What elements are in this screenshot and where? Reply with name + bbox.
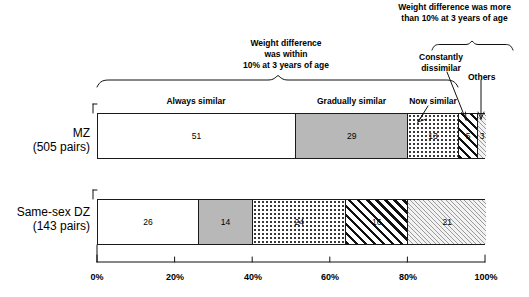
row-label-dz-sub: (143 pairs) [0, 219, 90, 233]
stacked-bar-chart: Weight difference was more than 10% at 3… [0, 0, 529, 297]
bar-mz-segment-now-similar: 13 [408, 114, 458, 158]
annotation-within-line2: was within [196, 49, 376, 60]
bar-dz-segment-others: 21 [408, 200, 486, 244]
bar-dz-value-constantly: 16 [371, 217, 382, 227]
brace-more-than-10 [432, 41, 513, 50]
callout-constantly-line2: dissimilar [408, 63, 474, 74]
bar-dz-value-now: 24 [294, 217, 305, 227]
bar-dz-segment-now-similar: 24 [253, 200, 346, 244]
segment-header-gradually-similar: Gradually similar [295, 96, 408, 106]
row-label-mz-sub: (505 pairs) [0, 140, 90, 154]
bar-dz-segment-gradually-similar: 14 [199, 200, 253, 244]
x-tick-label-20: 20% [155, 272, 195, 282]
row-label-mz: MZ (505 pairs) [0, 126, 90, 154]
row-label-dz: Same-sex DZ (143 pairs) [0, 205, 90, 233]
annotation-within-line3: 10% at 3 years of age [196, 60, 376, 71]
callout-constantly-dissimilar: Constantly dissimilar [408, 52, 474, 74]
annotation-more-line1: Weight difference was more [380, 2, 529, 13]
segment-header-always-similar: Always similar [97, 96, 295, 106]
bar-mz-segment-always-similar: 51 [98, 114, 296, 158]
bar-dz-segment-constantly-dissimilar: 16 [346, 200, 408, 244]
annotation-more-than-10: Weight difference was more than 10% at 3… [380, 2, 529, 24]
callout-constantly-line1: Constantly [408, 52, 474, 63]
bar-corner-tick-dz [93, 190, 97, 199]
bar-mz-segment-others: 3 [478, 114, 486, 158]
bar-mz-value-others: 3 [479, 131, 486, 141]
annotation-more-line2: than 10% at 3 years of age [380, 13, 529, 24]
row-label-mz-name: MZ [0, 126, 90, 140]
bar-dz-value-others: 21 [441, 217, 452, 227]
bar-mz-value-gradually: 29 [346, 131, 357, 141]
bar-mz-segment-constantly-dissimilar: 5 [459, 114, 478, 158]
annotation-within-10: Weight difference was within 10% at 3 ye… [196, 38, 376, 71]
bar-dz: 26 14 24 16 21 [97, 199, 485, 245]
segment-header-now-similar: Now similar [400, 96, 466, 106]
bar-mz-value-now: 13 [427, 131, 438, 141]
bar-mz: 51 29 13 5 3 [97, 113, 485, 159]
annotation-within-line1: Weight difference [196, 38, 376, 49]
x-tick-label-60: 60% [310, 272, 350, 282]
row-label-dz-name: Same-sex DZ [0, 205, 90, 219]
x-tick-label-100: 100% [466, 272, 506, 282]
x-tick-label-80: 80% [388, 272, 428, 282]
bar-mz-segment-gradually-similar: 29 [296, 114, 409, 158]
x-tick-label-0: 0% [77, 272, 117, 282]
bar-dz-segment-always-similar: 26 [98, 200, 199, 244]
brace-within-10 [97, 76, 458, 88]
callout-others: Others [468, 72, 512, 83]
x-tick-label-40: 40% [233, 272, 273, 282]
bar-mz-value-always: 51 [191, 131, 202, 141]
bar-mz-value-constantly: 5 [465, 131, 472, 141]
bar-dz-value-always: 26 [142, 217, 153, 227]
bar-dz-value-gradually: 14 [220, 217, 231, 227]
